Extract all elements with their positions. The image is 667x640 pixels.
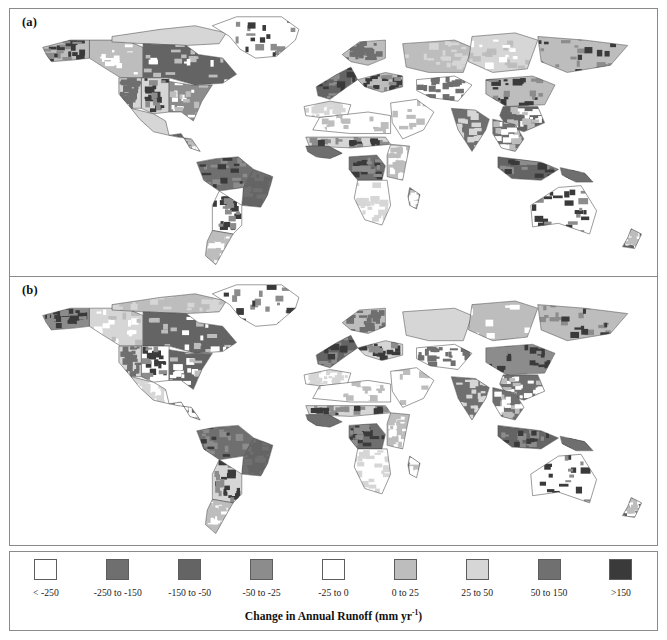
map-speckle bbox=[188, 115, 195, 118]
map-speckle bbox=[442, 50, 445, 55]
legend-item: 50 to 150 bbox=[514, 559, 584, 598]
map-speckle bbox=[370, 139, 375, 142]
map-speckle bbox=[219, 430, 224, 432]
map-speckle bbox=[409, 123, 416, 127]
map-speckle bbox=[213, 184, 217, 188]
map-speckle bbox=[539, 457, 547, 462]
panel-b: (b) bbox=[10, 277, 657, 545]
map-speckle bbox=[65, 46, 71, 49]
map-speckle bbox=[530, 315, 538, 319]
map-speckle bbox=[206, 310, 214, 314]
map-speckle bbox=[322, 392, 328, 398]
map-speckle bbox=[559, 484, 568, 487]
map-speckle bbox=[456, 383, 463, 385]
map-speckle bbox=[141, 34, 147, 38]
map-speckle bbox=[421, 386, 428, 390]
map-speckle bbox=[637, 514, 640, 517]
map-speckle bbox=[395, 104, 399, 110]
map-speckle bbox=[510, 135, 519, 138]
map-speckle bbox=[176, 407, 186, 412]
map-speckle bbox=[428, 362, 437, 367]
map-speckle bbox=[535, 198, 543, 203]
map-speckle bbox=[357, 213, 361, 218]
map-speckle bbox=[150, 108, 156, 112]
map-speckle bbox=[208, 243, 215, 247]
map-speckle bbox=[227, 433, 230, 436]
map-speckle bbox=[332, 110, 337, 114]
map-speckle bbox=[433, 357, 440, 359]
map-speckle bbox=[343, 359, 346, 361]
map-speckle bbox=[576, 214, 580, 218]
map-speckle bbox=[170, 357, 178, 361]
map-speckle bbox=[500, 378, 507, 384]
map-speckle bbox=[292, 314, 298, 318]
map-speckle bbox=[144, 78, 147, 81]
map-speckle bbox=[552, 491, 559, 497]
map-speckle bbox=[80, 310, 85, 313]
map-speckle bbox=[139, 381, 144, 386]
map-speckle bbox=[633, 500, 637, 507]
map-speckle bbox=[275, 47, 280, 49]
map-speckle bbox=[218, 460, 226, 465]
map-speckle bbox=[175, 407, 184, 414]
legend-swatch-row: < -250-250 to -150-150 to -50-50 to -25-… bbox=[10, 559, 657, 598]
map-speckle bbox=[202, 454, 205, 457]
map-speckle bbox=[393, 111, 398, 117]
map-speckle bbox=[233, 52, 237, 58]
map-speckle bbox=[197, 379, 206, 384]
map-speckle bbox=[374, 174, 382, 177]
map-speckle bbox=[222, 502, 229, 507]
map-region bbox=[306, 146, 342, 159]
map-speckle bbox=[361, 122, 367, 129]
map-speckle bbox=[187, 308, 192, 310]
map-speckle bbox=[359, 357, 365, 359]
map-speckle bbox=[623, 500, 629, 502]
map-region bbox=[391, 99, 434, 139]
map-speckle bbox=[72, 52, 77, 56]
map-speckle bbox=[161, 390, 164, 396]
map-speckle bbox=[77, 321, 85, 326]
map-speckle bbox=[485, 52, 492, 57]
map-speckle bbox=[578, 38, 582, 41]
map-speckle bbox=[62, 57, 71, 60]
map-speckle bbox=[337, 96, 342, 99]
map-speckle bbox=[366, 456, 375, 460]
map-speckle bbox=[555, 159, 558, 163]
map-region bbox=[538, 36, 628, 72]
map-speckle bbox=[377, 165, 380, 170]
map-speckle bbox=[543, 306, 546, 311]
map-speckle bbox=[535, 216, 544, 222]
map-region bbox=[212, 17, 299, 58]
map-speckle bbox=[618, 65, 623, 70]
map-speckle bbox=[202, 173, 211, 175]
map-speckle bbox=[531, 431, 536, 436]
legend-frame: < -250-250 to -150-150 to -50-50 to -25-… bbox=[9, 551, 658, 631]
map-speckle bbox=[429, 86, 436, 92]
map-speckle bbox=[134, 396, 138, 402]
map-speckle bbox=[311, 408, 321, 413]
map-speckle bbox=[583, 210, 586, 214]
map-region bbox=[560, 168, 593, 182]
map-speckle bbox=[564, 497, 567, 501]
panel-a-label: (a) bbox=[22, 15, 37, 30]
map-speckle bbox=[265, 307, 269, 312]
map-region bbox=[451, 377, 489, 420]
map-speckle bbox=[564, 191, 569, 197]
map-speckle bbox=[398, 173, 406, 179]
map-speckle bbox=[540, 482, 546, 486]
map-speckle bbox=[507, 413, 514, 416]
map-region bbox=[358, 72, 403, 92]
map-speckle bbox=[498, 145, 506, 150]
map-speckle bbox=[254, 178, 263, 181]
map-speckle bbox=[314, 105, 322, 112]
map-speckle bbox=[427, 391, 433, 396]
map-speckle bbox=[218, 524, 226, 530]
map-speckle bbox=[549, 474, 553, 478]
map-speckle bbox=[262, 440, 269, 445]
map-speckle bbox=[421, 335, 427, 337]
map-speckle bbox=[231, 169, 239, 173]
map-speckle bbox=[236, 22, 240, 27]
map-speckle bbox=[151, 296, 156, 303]
map-speckle bbox=[604, 323, 607, 327]
map-speckle bbox=[331, 344, 339, 351]
